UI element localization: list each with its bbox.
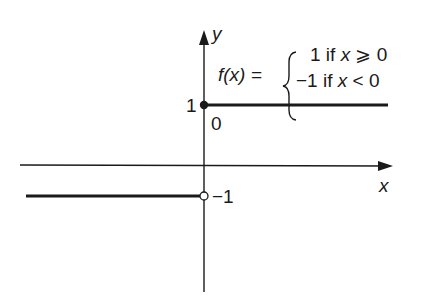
tick-label-origin: 0 (211, 114, 222, 133)
y-axis-label: y (212, 24, 222, 43)
case-if: if (323, 70, 333, 91)
case-var: x (338, 70, 348, 91)
open-endpoint-icon (200, 192, 208, 200)
case-value: 1 (310, 44, 321, 65)
tick-label-one: 1 (186, 96, 197, 115)
case-var: x (341, 44, 351, 65)
y-axis-arrow-icon (199, 30, 209, 45)
x-axis-label: x (379, 176, 389, 195)
case-row-nonnegative: 1 if x ⩾ 0 (296, 42, 387, 68)
cases-brace (283, 52, 296, 120)
function-label: f(x) = (218, 64, 262, 86)
x-axis-arrow-icon (378, 161, 393, 171)
closed-endpoint-icon (200, 101, 208, 109)
case-value: −1 (296, 70, 318, 91)
cases-block: 1 if x ⩾ 0 −1 if x < 0 (296, 42, 387, 94)
case-relation: ⩾ 0 (355, 44, 387, 65)
case-row-negative: −1 if x < 0 (296, 68, 387, 94)
tick-label-minus-one: −1 (212, 187, 234, 206)
case-relation: < 0 (353, 70, 380, 91)
case-if: if (326, 44, 336, 65)
